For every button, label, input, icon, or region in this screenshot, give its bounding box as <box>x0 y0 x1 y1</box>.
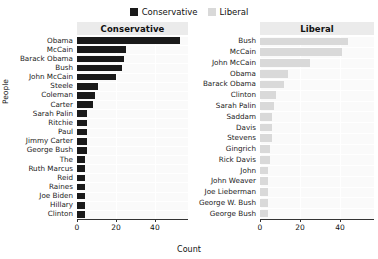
y-tick-label: Steele <box>50 82 73 90</box>
bar-row <box>77 184 188 191</box>
bar[interactable] <box>77 175 85 182</box>
y-tick-label: Raines <box>49 183 73 191</box>
bar[interactable] <box>77 110 87 117</box>
bar[interactable] <box>77 56 124 63</box>
legend-label-liberal: Liberal <box>220 8 249 17</box>
bar-row <box>260 177 374 185</box>
bar-row <box>77 120 188 127</box>
bar[interactable] <box>77 193 85 200</box>
y-tick-label: Stevens <box>227 134 256 142</box>
bar[interactable] <box>77 101 93 108</box>
x-tick <box>260 219 261 222</box>
bar[interactable] <box>260 113 272 121</box>
x-tick <box>340 219 341 222</box>
y-tick-label: George W. Bush <box>199 199 256 207</box>
bar-row <box>77 138 188 145</box>
bar[interactable] <box>77 37 180 44</box>
bar-row <box>260 113 374 121</box>
bar[interactable] <box>260 70 288 78</box>
bar[interactable] <box>77 156 85 163</box>
x-tick <box>77 219 78 222</box>
panel-strip-title-conservative: Conservative <box>101 24 165 34</box>
bars-liberal <box>260 36 374 219</box>
bar-row <box>260 199 374 207</box>
legend-swatch-conservative <box>130 8 138 16</box>
bar[interactable] <box>260 134 272 142</box>
bar[interactable] <box>77 147 87 154</box>
y-tick-label: Coleman <box>41 91 73 99</box>
bar[interactable] <box>260 177 268 185</box>
bar-row <box>77 101 188 108</box>
chart-root: Conservative Liberal Conservative ObamaM… <box>0 0 378 259</box>
chart-legend: Conservative Liberal <box>0 5 378 19</box>
y-tick-label: Carter <box>50 101 73 109</box>
x-tick-label: 40 <box>335 223 345 232</box>
bar[interactable] <box>260 48 342 56</box>
x-axis-liberal: 02040 <box>260 219 374 239</box>
y-tick-label: Paul <box>58 128 73 136</box>
x-tick-label: 20 <box>295 223 305 232</box>
bar[interactable] <box>77 92 95 99</box>
bar-row <box>260 210 374 218</box>
y-tick-label: Ruth Marcus <box>28 165 73 173</box>
bar[interactable] <box>260 91 276 99</box>
bar-row <box>77 74 188 81</box>
bar[interactable] <box>260 188 268 196</box>
x-tick-label: 0 <box>258 223 263 232</box>
bar[interactable] <box>260 38 348 46</box>
y-tick-label: Davis <box>236 124 256 132</box>
bar-row <box>260 38 374 46</box>
bar-row <box>77 46 188 53</box>
bar[interactable] <box>260 145 270 153</box>
bar-row <box>77 65 188 72</box>
bar[interactable] <box>77 74 116 81</box>
bar-row <box>260 145 374 153</box>
bar[interactable] <box>260 210 268 218</box>
facet-panels: Conservative ObamaMcCainBarack ObamaBush… <box>0 22 378 259</box>
bar-row <box>260 48 374 56</box>
y-tick-label: Sarah Palin <box>33 110 73 118</box>
bar[interactable] <box>77 83 98 90</box>
bar[interactable] <box>260 199 268 207</box>
legend-label-conservative: Conservative <box>142 8 198 17</box>
bar[interactable] <box>260 102 274 110</box>
bar-row <box>260 81 374 89</box>
bar-row <box>260 188 374 196</box>
bars-conservative <box>77 36 188 219</box>
bar-row <box>77 37 188 44</box>
plot-area-liberal <box>260 36 374 219</box>
bar-row <box>77 156 188 163</box>
bar-row <box>260 156 374 164</box>
x-axis-conservative: 02040 <box>77 219 188 239</box>
bar-row <box>77 92 188 99</box>
y-tick-label: Obama <box>230 70 256 78</box>
bar[interactable] <box>260 81 284 89</box>
bar-row <box>77 110 188 117</box>
y-tick-label: Barack Obama <box>20 55 73 63</box>
y-tick-label: John McCain <box>29 73 73 81</box>
bar[interactable] <box>77 138 87 145</box>
bar[interactable] <box>77 120 87 127</box>
bar[interactable] <box>77 46 126 53</box>
bar[interactable] <box>77 165 85 172</box>
bar[interactable] <box>260 167 268 175</box>
bar-row <box>77 147 188 154</box>
bar[interactable] <box>77 184 85 191</box>
bar[interactable] <box>260 156 270 164</box>
bar[interactable] <box>260 59 310 67</box>
panel-conservative: Conservative ObamaMcCainBarack ObamaBush… <box>36 22 188 238</box>
bar[interactable] <box>77 65 122 72</box>
x-tick <box>155 219 156 222</box>
y-tick-label: McCain <box>47 46 73 54</box>
bar[interactable] <box>77 211 85 218</box>
y-tick-label: Rick Davis <box>219 156 256 164</box>
bar[interactable] <box>77 129 87 136</box>
y-axis-title: People <box>1 79 10 104</box>
y-tick-label: George Bush <box>27 146 73 154</box>
bar-row <box>260 167 374 175</box>
bar[interactable] <box>260 124 272 132</box>
y-tick-label: Clinton <box>231 91 256 99</box>
bar[interactable] <box>77 202 85 209</box>
y-axis-labels-conservative: ObamaMcCainBarack ObamaBushJohn McCainSt… <box>36 36 75 219</box>
legend-item-liberal: Liberal <box>208 8 249 17</box>
